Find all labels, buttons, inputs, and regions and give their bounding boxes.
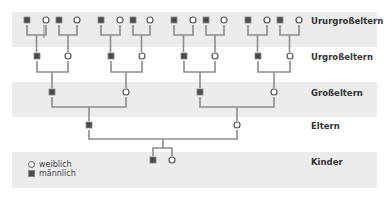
- legend-male: männlich: [28, 169, 76, 178]
- legend: weiblich männlich: [28, 160, 76, 178]
- row-eltern: [86, 122, 240, 128]
- label-eltern: Eltern: [311, 121, 340, 131]
- label-urgrosseltern: Urgroßeltern: [311, 52, 373, 62]
- legend-male-label: männlich: [39, 169, 76, 178]
- legend-female-label: weiblich: [39, 160, 72, 169]
- row-kinder: [150, 157, 175, 163]
- row-grosseltern: [49, 89, 277, 95]
- label-ururgrosseltern: Ururgroßeltern: [311, 16, 383, 26]
- female-circle-icon: [28, 161, 35, 168]
- legend-female: weiblich: [28, 160, 76, 169]
- label-grosseltern: Großeltern: [311, 88, 363, 98]
- label-kinder: Kinder: [311, 157, 343, 167]
- row-urgrosseltern: [34, 53, 293, 59]
- row-ururgrosseltern: [24, 17, 302, 23]
- male-square-icon: [28, 170, 35, 177]
- connector-lines: [27, 25, 299, 156]
